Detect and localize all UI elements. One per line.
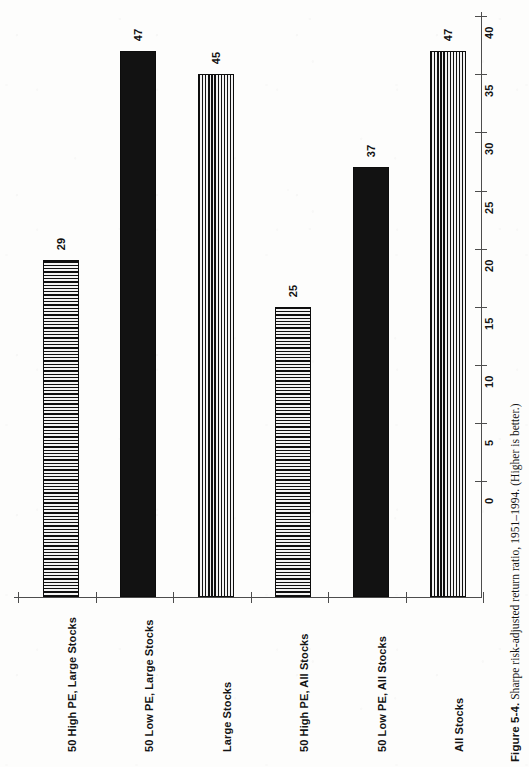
category-axis-tick — [251, 592, 252, 603]
bar-value-label: 45 — [210, 48, 222, 68]
category-axis-line — [14, 597, 482, 598]
category-axis-label: 50 High PE, All Stocks — [298, 633, 310, 752]
category-axis-tick — [328, 592, 329, 603]
bar-value-label: 25 — [287, 281, 299, 301]
value-axis-tick-label: 15 — [483, 296, 495, 330]
value-axis-tick-label: 0 — [483, 470, 495, 504]
category-axis-tick — [483, 592, 484, 603]
value-axis-tick-label: 40 — [483, 5, 495, 39]
value-axis-tick-label: 20 — [483, 238, 495, 272]
category-axis-label: 50 Low PE, Large Stocks — [143, 619, 155, 752]
value-axis-line — [481, 12, 482, 598]
category-axis-label: 50 High PE, Large Stocks — [66, 617, 78, 752]
category-axis-label: Large Stocks — [221, 682, 233, 752]
category-axis-tick — [18, 592, 19, 603]
category-axis-tick — [96, 592, 97, 603]
bar-value-label: 29 — [55, 234, 67, 254]
bar — [430, 51, 466, 597]
bar-value-label: 37 — [365, 141, 377, 161]
bar — [198, 74, 234, 597]
bar — [353, 167, 389, 597]
figure-caption-text: Sharpe risk-adjusted return ratio, 1951–… — [509, 403, 521, 699]
category-axis-tick — [173, 592, 174, 603]
bar-chart: 05101520253035404550 294745253747 50 Hig… — [0, 0, 529, 767]
bar-value-label: 47 — [442, 25, 454, 45]
bar — [120, 51, 156, 597]
figure-caption: Figure 5-4. Sharpe risk-adjusted return … — [509, 403, 521, 762]
bar — [43, 260, 79, 597]
value-axis-tick-label: 30 — [483, 121, 495, 155]
value-axis-tick-label: 5 — [483, 412, 495, 446]
value-axis-tick-label: 10 — [483, 354, 495, 388]
category-axis-label: All Stocks — [453, 698, 465, 752]
value-axis-tick-label: 35 — [483, 63, 495, 97]
bar-value-label: 47 — [132, 25, 144, 45]
figure-caption-label: Figure 5-4. — [509, 703, 521, 762]
category-axis-label: 50 Low PE, All Stocks — [376, 636, 388, 752]
value-axis-tick-label: 25 — [483, 180, 495, 214]
bar — [275, 307, 311, 598]
scanned-page: 05101520253035404550 294745253747 50 Hig… — [0, 0, 529, 767]
category-axis-tick — [406, 592, 407, 603]
